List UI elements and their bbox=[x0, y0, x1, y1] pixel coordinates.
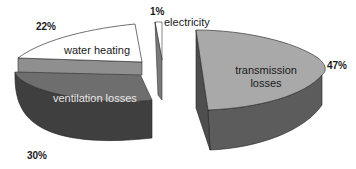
transmission-losses-label-line1: transmission bbox=[226, 64, 306, 76]
slice-electricity bbox=[155, 22, 162, 100]
ventilation-losses-percent: 30% bbox=[27, 150, 47, 161]
slice-transmission-losses bbox=[196, 30, 325, 150]
slice-ventilation-losses bbox=[15, 72, 152, 141]
electricity-percent: 1% bbox=[150, 6, 164, 17]
transmission-losses-label-line2: losses bbox=[226, 77, 306, 89]
ventilation-losses-label: ventilation losses bbox=[53, 92, 137, 104]
water-heating-percent: 22% bbox=[36, 21, 56, 32]
electricity-label: electricity bbox=[164, 16, 210, 28]
water-heating-label: water heating bbox=[64, 44, 130, 56]
transmission-losses-percent: 47% bbox=[327, 60, 347, 71]
